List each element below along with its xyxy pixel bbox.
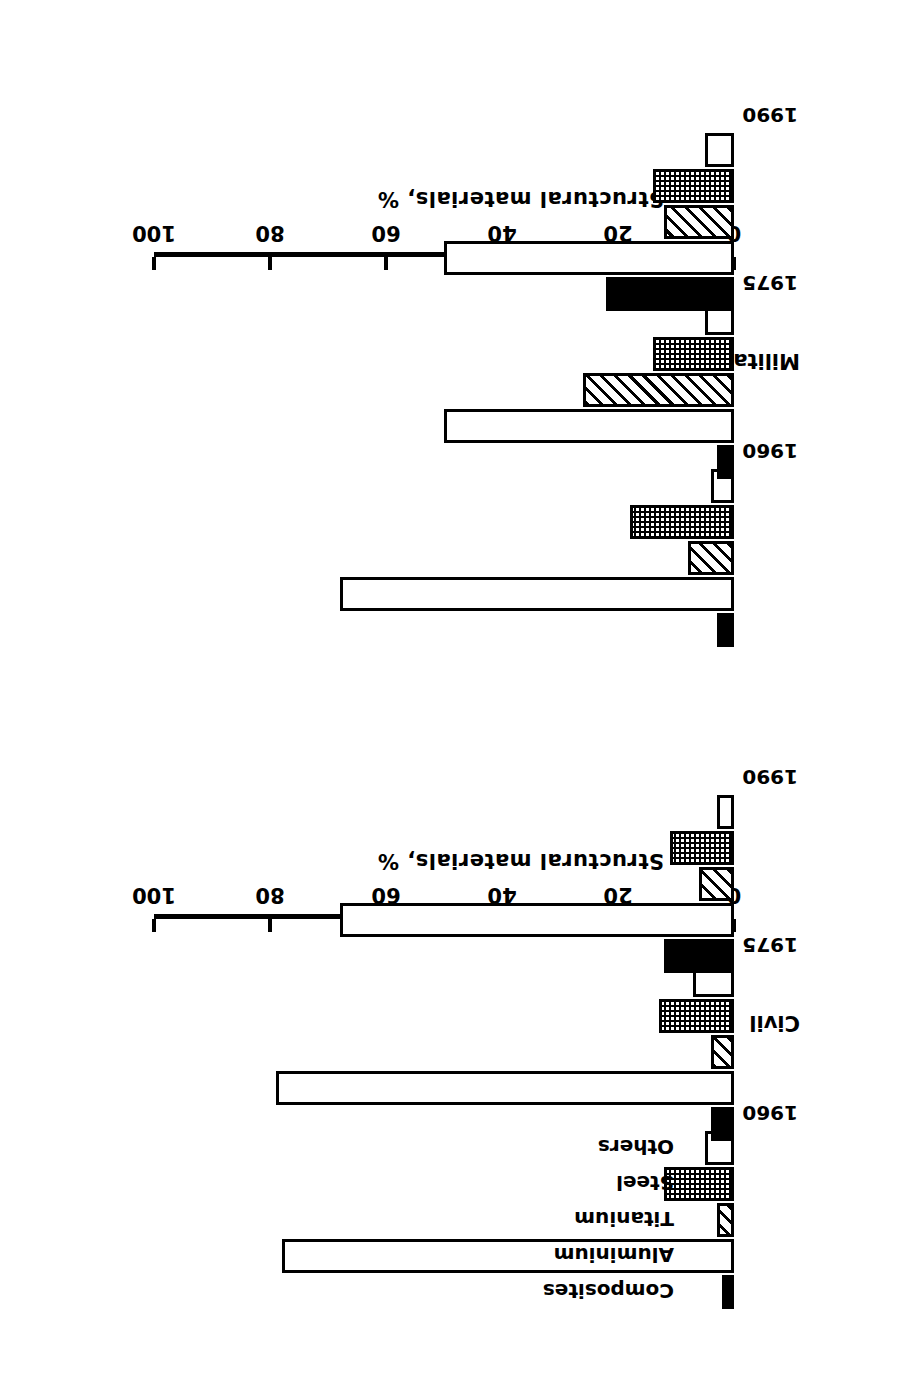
bar-military-1975-steel bbox=[653, 337, 734, 371]
year-tick-label: 1960 bbox=[742, 439, 798, 463]
bar-civil-1960-steel bbox=[664, 1167, 734, 1201]
axis-tick bbox=[152, 257, 156, 270]
bar-military-1990-steel bbox=[653, 169, 734, 203]
series-label-titanium: Titanium bbox=[494, 1207, 674, 1231]
bar-military-1990-others bbox=[705, 133, 734, 167]
series-label-others: Others bbox=[494, 1135, 674, 1159]
bar-military-1975-aluminium bbox=[444, 409, 734, 443]
axis-tick bbox=[268, 919, 272, 932]
axis-tick-label: 100 bbox=[128, 221, 180, 245]
bar-civil-1960-composites bbox=[722, 1275, 734, 1309]
year-tick-label: 1975 bbox=[742, 271, 798, 295]
axis-tick-label: 100 bbox=[128, 883, 180, 907]
year-tick-label: 1990 bbox=[742, 103, 798, 127]
year-tick-label: 1960 bbox=[742, 1101, 798, 1125]
axis-tick bbox=[268, 257, 272, 270]
series-label-composites: Composites bbox=[494, 1279, 674, 1303]
bar-military-1990-composites bbox=[606, 277, 734, 311]
bar-civil-1990-others bbox=[717, 795, 734, 829]
axis-title: Structural materials, % bbox=[377, 187, 664, 211]
axis-tick-label: 80 bbox=[244, 883, 296, 907]
bar-military-1990-aluminium bbox=[444, 241, 734, 275]
bar-military-1960-titanium bbox=[688, 541, 734, 575]
year-tick-label: 1975 bbox=[742, 933, 798, 957]
bar-civil-1960-titanium bbox=[717, 1203, 734, 1237]
axis-title: Structural materials, % bbox=[377, 849, 664, 873]
bar-civil-1990-titanium bbox=[699, 867, 734, 901]
chart-panel-military: 020406080100Structural materials, %Milit… bbox=[0, 67, 910, 687]
bar-military-1975-titanium bbox=[583, 373, 734, 407]
bar-civil-1990-steel bbox=[670, 831, 734, 865]
series-label-steel: Steel bbox=[494, 1171, 674, 1195]
bar-military-1960-steel bbox=[630, 505, 734, 539]
bar-civil-1990-composites bbox=[664, 939, 734, 973]
chart-panel-civil: 020406080100Structural materials, %Civil… bbox=[0, 729, 910, 1349]
axis-tick-label: 60 bbox=[360, 221, 412, 245]
bar-civil-1975-aluminium bbox=[276, 1071, 734, 1105]
axis-tick-label: 80 bbox=[244, 221, 296, 245]
series-label-aluminium: Aluminium bbox=[494, 1243, 674, 1267]
bar-military-1960-composites bbox=[717, 613, 734, 647]
bar-military-1960-aluminium bbox=[340, 577, 734, 611]
year-tick-label: 1990 bbox=[742, 765, 798, 789]
bar-civil-1975-composites bbox=[711, 1107, 734, 1141]
axis-tick bbox=[152, 919, 156, 932]
bar-civil-1975-steel bbox=[659, 999, 734, 1033]
bar-civil-1990-aluminium bbox=[340, 903, 734, 937]
figure-rotated-container: 020406080100Structural materials, %Civil… bbox=[0, 0, 910, 1397]
panel-title: Civil bbox=[749, 1011, 800, 1035]
bar-civil-1975-titanium bbox=[711, 1035, 734, 1069]
bar-military-1975-composites bbox=[717, 445, 734, 479]
bar-military-1990-titanium bbox=[664, 205, 734, 239]
axis-tick bbox=[384, 257, 388, 270]
